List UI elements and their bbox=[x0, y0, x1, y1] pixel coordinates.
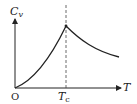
critical-label-subscript: c bbox=[65, 95, 69, 104]
rising-curve bbox=[15, 26, 66, 88]
x-axis-label: T bbox=[123, 82, 130, 93]
heat-capacity-diagram: Cv T O Tc bbox=[0, 0, 137, 104]
critical-temperature-label: Tc bbox=[58, 91, 70, 102]
origin-label: O bbox=[11, 92, 19, 102]
y-axis-label: Cv bbox=[10, 6, 23, 17]
decaying-curve bbox=[66, 26, 119, 57]
peak-point bbox=[65, 25, 68, 28]
y-axis-label-subscript: v bbox=[18, 10, 23, 19]
